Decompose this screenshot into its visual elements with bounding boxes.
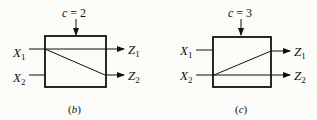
input-label-x2-b: X2 — [12, 70, 25, 87]
switch-diagrams: c = 2 X1 X2 Z1 Z2 (b) c = 3 X1 X2 Z1 Z2 … — [0, 0, 317, 120]
output-label-z2-c: Z2 — [294, 68, 306, 85]
control-label-c: c = 3 — [228, 6, 252, 20]
input-label-x2-c: X2 — [179, 68, 192, 85]
diagram-b: c = 2 X1 X2 Z1 Z2 (b) — [12, 6, 140, 116]
output-label-z1-c: Z1 — [294, 44, 306, 61]
output-label-z2-b: Z2 — [128, 68, 140, 85]
switch-box-c — [213, 37, 271, 87]
control-label-b: c = 2 — [62, 6, 86, 20]
switch-box-b — [45, 36, 106, 87]
input-label-x1-c: X1 — [179, 43, 192, 60]
connection-x2-z1-c — [214, 51, 271, 75]
input-label-x1-b: X1 — [12, 45, 25, 62]
caption-c: (c) — [235, 103, 248, 116]
caption-b: (b) — [68, 103, 81, 116]
output-label-z1-b: Z1 — [128, 42, 140, 59]
diagram-c: c = 3 X1 X2 Z1 Z2 (c) — [179, 6, 306, 116]
connection-x1-z2-b — [45, 49, 105, 75]
